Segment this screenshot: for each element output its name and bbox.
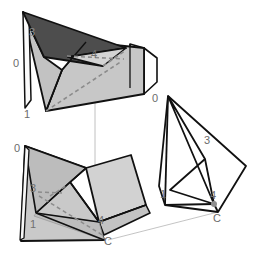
bottom-left-folded-form: 0 3 1 4 C [14, 142, 150, 247]
right-form-label-0: 0 [152, 92, 158, 104]
bottom-form-label-0: 0 [14, 142, 20, 154]
right-form-label-C: C [213, 212, 221, 224]
origami-figure-container: 3 0 4 1 [0, 0, 268, 260]
origami-diagram: 3 0 4 1 [0, 0, 268, 260]
top-form-label-4: 4 [91, 48, 97, 60]
top-form-right-white-panel [144, 48, 157, 94]
bottom-form-label-3: 3 [30, 182, 36, 194]
top-form-label-3: 3 [29, 26, 35, 38]
top-left-folded-form: 3 0 4 1 [13, 12, 157, 120]
right-wireframe-form [159, 96, 246, 212]
right-form-inner-fan [168, 96, 214, 204]
bottom-form-label-1: 1 [30, 218, 36, 230]
right-form-edge-1-4 [165, 204, 214, 205]
bottom-form-label-4: 4 [98, 214, 104, 226]
bottom-form-label-C: C [104, 235, 112, 247]
right-form-label-1: 1 [160, 188, 166, 200]
right-form-vertex-dot-4 [211, 201, 217, 207]
right-form-label-3: 3 [204, 134, 210, 146]
top-form-label-1: 1 [24, 108, 30, 120]
right-form-label-4: 4 [210, 189, 216, 201]
top-form-label-0: 0 [13, 57, 19, 69]
